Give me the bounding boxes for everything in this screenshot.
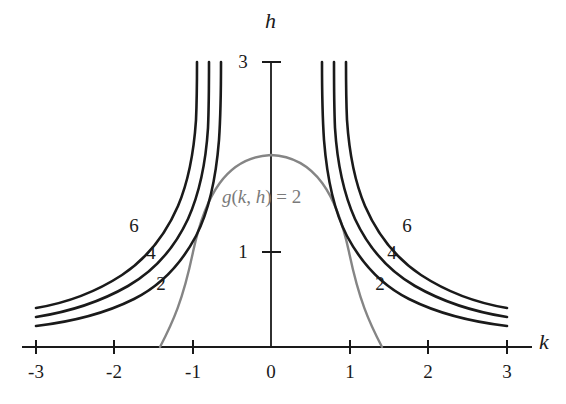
- contour-label-var-k: k: [238, 186, 246, 207]
- x-tick-label-1: 1: [337, 362, 363, 381]
- curve-label-6-left: 6: [125, 216, 143, 235]
- x-tick-label--3: -3: [22, 362, 50, 381]
- contour-label-value: 2: [292, 186, 302, 207]
- y-axis-label: h: [265, 10, 276, 32]
- contour-label-var-h: h: [256, 186, 266, 207]
- x-tick-label-2: 2: [415, 362, 441, 381]
- curve-label-2-right: 2: [371, 274, 389, 293]
- x-tick-label-3: 3: [494, 362, 520, 381]
- contour-label-function-name: g: [222, 186, 232, 207]
- y-tick-label-3: 3: [233, 52, 253, 71]
- x-tick-label--2: -2: [100, 362, 128, 381]
- contour-label-equals: =: [272, 186, 292, 207]
- curve-label-6-right: 6: [398, 216, 416, 235]
- curve-label-4-left: 4: [142, 243, 160, 262]
- contour-label-comma: ,: [246, 186, 256, 207]
- y-tick-label-1: 1: [233, 242, 253, 261]
- curve-label-4-right: 4: [383, 243, 401, 262]
- curve-label-2-left: 2: [152, 274, 170, 293]
- x-axis-label: k: [539, 331, 549, 353]
- contour-plot-figure: h k -3 -2 -1 0 1 2 3 3 1 g(k, h) = 2 6 4…: [0, 0, 566, 404]
- x-tick-label--1: -1: [179, 362, 207, 381]
- x-tick-label-0: 0: [258, 362, 284, 381]
- contour-label-g-level-2: g(k, h) = 2: [222, 187, 301, 206]
